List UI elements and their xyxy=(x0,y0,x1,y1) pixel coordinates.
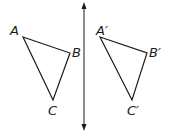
triangle-a-prime-b-prime-c-prime: A′ B′ C′ xyxy=(95,23,161,118)
vertex-label-a-prime: A′ xyxy=(95,23,108,38)
vertical-line xyxy=(82,2,87,131)
triangle-a-prime-shape xyxy=(100,37,147,100)
vertex-label-b-prime: B′ xyxy=(149,45,161,60)
vertex-label-c-prime: C′ xyxy=(127,103,139,118)
triangle-abc-shape xyxy=(23,37,70,100)
vertex-label-b: B xyxy=(72,45,81,60)
arrowhead-down-icon xyxy=(82,124,87,131)
vertex-label-c: C xyxy=(48,103,58,118)
arrowhead-up-icon xyxy=(82,2,87,9)
triangle-diagram: A B C A′ B′ C′ xyxy=(0,0,169,133)
triangle-abc: A B C xyxy=(9,23,81,118)
vertex-label-a: A xyxy=(9,23,19,38)
